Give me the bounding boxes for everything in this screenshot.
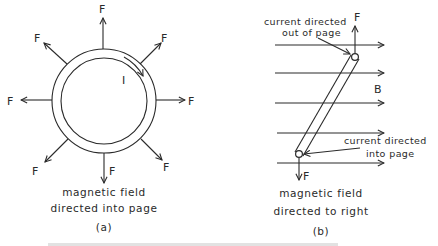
panel-a-caption-line1: magnetic field [62,186,146,198]
current-label: I [122,74,125,87]
force-label-s: F [109,165,115,178]
panel-a-label: (a) [96,221,112,233]
force-label-w: F [7,95,13,108]
annotation-into-line1: current directed [344,135,427,146]
pointer-out-of-page [318,38,350,54]
force-label-nw: F [34,32,40,45]
figure: I F F F F F F F F magnetic field directe… [0,0,438,246]
field-label-b: B [374,83,382,96]
panel-a: I F F F F F F F F magnetic field directe… [7,3,194,233]
force-label-bottom: F [303,170,309,183]
force-label-top: F [354,11,360,24]
force-arrow-se [141,139,162,160]
panel-a-caption-line2: directed into page [51,202,158,214]
force-label-ne: F [161,32,167,45]
force-label-n: F [99,3,105,16]
current-loop-outer [52,49,156,153]
annotation-out-line1: current directed [264,16,347,27]
annotation-out-line2: out of page [282,27,341,38]
panel-b-label: (b) [313,225,330,237]
force-arrow-nw [44,43,67,64]
current-arrow-icon [124,57,143,76]
panel-b-caption-line1: magnetic field [279,187,363,199]
wire-out-of-page [352,54,359,61]
current-loop-inner [61,58,147,144]
force-arrow-sw [45,139,68,162]
force-label-sw: F [32,165,38,178]
wire-into-page [296,151,303,158]
panel-b-caption-line2: directed to right [273,205,368,217]
annotation-into-line2: into page [366,148,415,159]
force-label-se: F [163,161,169,174]
force-arrow-ne [140,43,161,64]
pointer-into-page [304,148,360,154]
force-label-e: F [188,95,194,108]
panel-b: B F F current directed out of page curre… [264,11,427,237]
